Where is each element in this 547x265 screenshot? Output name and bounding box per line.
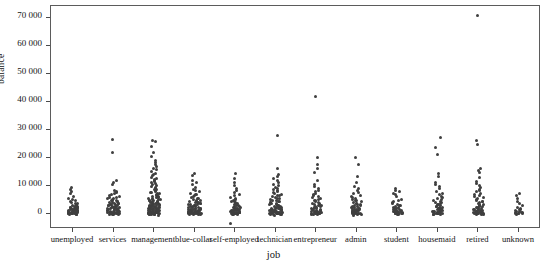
data-point bbox=[359, 194, 362, 197]
data-point bbox=[438, 187, 441, 190]
data-point bbox=[360, 213, 363, 216]
data-point bbox=[75, 213, 78, 216]
data-point bbox=[150, 185, 153, 188]
y-axis-tick: 30 000 bbox=[0, 129, 50, 130]
data-point bbox=[515, 213, 518, 216]
data-point bbox=[398, 190, 401, 193]
y-axis-tick-label: 20 000 bbox=[17, 150, 42, 160]
data-point bbox=[436, 153, 439, 156]
data-point bbox=[229, 196, 232, 199]
x-axis-tick-mark bbox=[437, 228, 438, 232]
data-point bbox=[439, 136, 442, 139]
data-point bbox=[238, 193, 241, 196]
data-point bbox=[198, 190, 201, 193]
y-axis-tick: 0 bbox=[0, 213, 50, 214]
data-point bbox=[476, 14, 479, 17]
data-point bbox=[312, 213, 315, 216]
data-point bbox=[518, 192, 521, 195]
data-point bbox=[475, 139, 478, 142]
data-point bbox=[356, 175, 359, 178]
data-point bbox=[316, 167, 319, 170]
data-point bbox=[280, 213, 283, 216]
data-point bbox=[111, 138, 114, 141]
y-axis-tick-label: 10 000 bbox=[17, 178, 42, 188]
x-axis-tick-mark bbox=[315, 228, 316, 232]
data-point bbox=[434, 183, 437, 186]
data-point bbox=[153, 213, 156, 216]
data-point bbox=[68, 213, 71, 216]
x-axis-tick-mark bbox=[477, 228, 478, 232]
data-point bbox=[191, 174, 194, 177]
data-point bbox=[195, 181, 198, 184]
data-point bbox=[155, 168, 158, 171]
data-point bbox=[395, 195, 398, 198]
y-axis-tick-label: 60 000 bbox=[17, 38, 42, 48]
data-point bbox=[199, 202, 202, 205]
data-point bbox=[234, 172, 237, 175]
x-axis-tick-label: entrepreneur bbox=[294, 234, 337, 244]
data-point bbox=[154, 140, 157, 143]
x-axis-tick-label: admin bbox=[345, 234, 366, 244]
y-axis-tick-mark bbox=[46, 213, 50, 214]
data-point bbox=[188, 213, 191, 216]
data-point bbox=[276, 134, 279, 137]
x-axis-tick-mark bbox=[518, 228, 519, 232]
data-point bbox=[480, 213, 483, 216]
y-axis-tick: 10 000 bbox=[0, 185, 50, 186]
x-axis-tick-mark bbox=[396, 228, 397, 232]
x-axis-title: job bbox=[0, 249, 547, 260]
x-axis-tick-label: retired bbox=[466, 234, 488, 244]
data-point bbox=[441, 212, 444, 215]
x-axis-tick-label: technician bbox=[257, 234, 292, 244]
data-point bbox=[273, 214, 276, 217]
data-point bbox=[72, 195, 75, 198]
data-point bbox=[229, 222, 232, 225]
data-point bbox=[236, 213, 239, 216]
x-axis-tick-mark bbox=[356, 228, 357, 232]
data-point bbox=[115, 191, 118, 194]
data-point bbox=[276, 167, 279, 170]
x-axis-tick-label: self-employed bbox=[210, 234, 259, 244]
y-axis-tick-mark bbox=[46, 73, 50, 74]
y-axis-tick-label: 70 000 bbox=[17, 10, 42, 20]
data-point bbox=[191, 183, 194, 186]
y-axis-tick: 40 000 bbox=[0, 101, 50, 102]
data-point bbox=[482, 196, 485, 199]
x-axis-tick-mark bbox=[275, 228, 276, 232]
data-point bbox=[269, 213, 272, 216]
data-point bbox=[400, 198, 403, 201]
data-point bbox=[189, 192, 192, 195]
y-axis-tick: 50 000 bbox=[0, 73, 50, 74]
data-point bbox=[478, 171, 481, 174]
y-axis-tick: 60 000 bbox=[0, 45, 50, 46]
x-axis-tick-mark bbox=[234, 228, 235, 232]
data-point bbox=[437, 175, 440, 178]
data-point bbox=[357, 163, 360, 166]
x-axis-tick-mark bbox=[113, 228, 114, 232]
data-point bbox=[152, 151, 155, 154]
data-point bbox=[233, 177, 236, 180]
x-axis-tick-label: services bbox=[99, 234, 127, 244]
data-point bbox=[314, 95, 317, 98]
y-axis-title: balance bbox=[0, 0, 6, 84]
data-point bbox=[117, 213, 120, 216]
y-axis-tick: 70 000 bbox=[0, 17, 50, 18]
data-point bbox=[278, 200, 281, 203]
data-point bbox=[352, 214, 355, 217]
data-point bbox=[157, 214, 160, 217]
data-point bbox=[355, 181, 358, 184]
data-point bbox=[478, 176, 481, 179]
data-point bbox=[276, 175, 279, 178]
data-point bbox=[150, 191, 153, 194]
data-point bbox=[316, 213, 319, 216]
data-point bbox=[194, 189, 197, 192]
data-point bbox=[521, 212, 524, 215]
x-axis-tick-label: housemaid bbox=[418, 234, 455, 244]
data-point bbox=[434, 146, 437, 149]
x-axis-tick-mark bbox=[72, 228, 73, 232]
x-axis-tick-label: blue-collar bbox=[175, 234, 212, 244]
x-axis-tick-label: management bbox=[131, 234, 175, 244]
y-axis-tick-mark bbox=[46, 45, 50, 46]
data-point bbox=[150, 145, 153, 148]
chart-root: 010 00020 00030 00040 00050 00060 00070 … bbox=[0, 0, 547, 265]
